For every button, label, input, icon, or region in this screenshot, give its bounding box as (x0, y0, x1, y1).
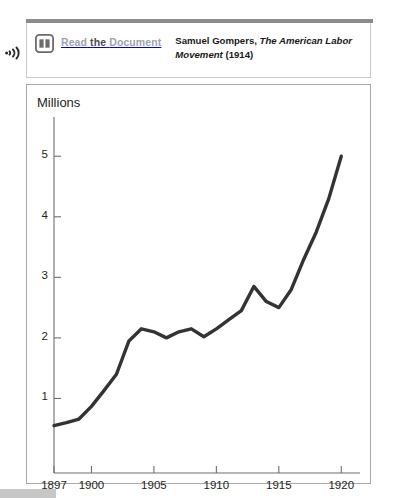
chart-panel: Millions 12345189719001905191019151920 (26, 84, 371, 484)
read-link-word-read: Read (61, 36, 87, 48)
document-citation: Samuel Gompers, The American Labor Movem… (175, 34, 362, 62)
document-header: Read the Document Samuel Gompers, The Am… (26, 23, 371, 78)
read-the-document-link[interactable]: Read the Document (61, 36, 161, 48)
y-tick-label: 3 (30, 269, 48, 281)
y-tick-label: 2 (30, 330, 48, 342)
x-tick-label: 1920 (321, 479, 361, 491)
open-book-icon[interactable] (35, 34, 54, 53)
x-tick-label: 1910 (196, 479, 236, 491)
x-tick-label: 1915 (259, 479, 299, 491)
x-tick-label: 1900 (71, 479, 111, 491)
citation-author: Samuel Gompers, (175, 35, 257, 46)
read-link-word-document: Document (109, 36, 161, 48)
x-tick-label: 1905 (134, 479, 174, 491)
read-link-word-the: the (90, 36, 106, 48)
y-tick-label: 5 (30, 148, 48, 160)
audio-listen-icon[interactable] (2, 42, 24, 64)
y-tick-label: 1 (30, 390, 48, 402)
page-footer-stub (0, 489, 56, 498)
line-chart-plot (27, 85, 370, 483)
citation-year: (1914) (225, 49, 253, 60)
y-tick-label: 4 (30, 209, 48, 221)
